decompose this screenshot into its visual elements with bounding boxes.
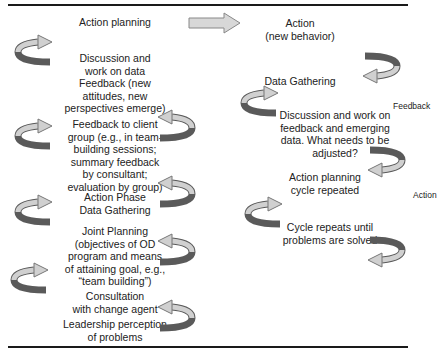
curved-arrow-icon: [158, 106, 198, 144]
side-label-feedback: Feedback: [393, 101, 430, 111]
label-action-planning-repeated: Action planning cycle repeated: [270, 171, 380, 196]
curved-arrow-icon: [158, 172, 198, 210]
curved-arrow-icon: [10, 192, 54, 228]
curved-arrow-icon: [6, 260, 50, 296]
curved-arrow-icon: [10, 32, 54, 68]
label-action-planning: Action planning: [40, 16, 190, 29]
bottom-rule: [8, 346, 408, 348]
curved-arrow-icon: [240, 194, 284, 230]
curved-arrow-icon: [158, 296, 198, 334]
curved-arrow-icon: [363, 48, 403, 86]
curved-arrow-icon: [236, 83, 280, 119]
side-label-action: Action: [413, 190, 437, 200]
label-action-new-behavior: Action (new behavior): [240, 17, 360, 42]
curved-arrow-icon: [10, 116, 54, 152]
top-rule: [8, 4, 408, 6]
curved-arrow-icon: [368, 142, 408, 180]
curved-arrow-icon: [158, 230, 198, 268]
curved-arrow-icon: [368, 232, 408, 270]
straight-right-arrow-icon: [188, 12, 242, 34]
